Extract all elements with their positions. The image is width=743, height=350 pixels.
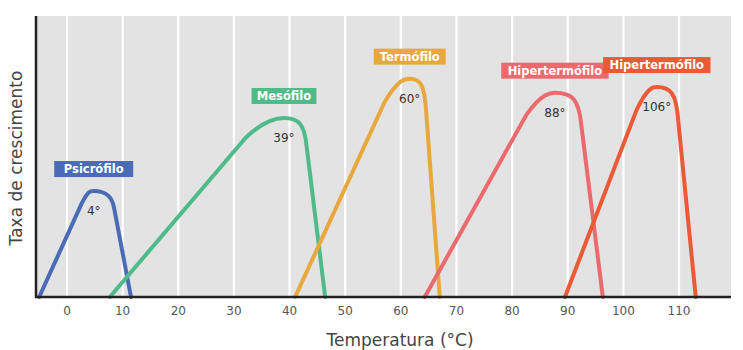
x-tick-label: 80 bbox=[504, 304, 519, 318]
series-label: Hipertermófilo bbox=[610, 58, 705, 72]
x-tick-label: 90 bbox=[560, 304, 575, 318]
x-tick-label: 60 bbox=[393, 304, 408, 318]
x-axis-label: Temperatura (°C) bbox=[250, 330, 550, 350]
optimum-label: 60° bbox=[399, 92, 420, 106]
x-tick-label: 50 bbox=[338, 304, 353, 318]
x-tick-labels: 0102030405060708090100110 bbox=[63, 304, 690, 318]
series-label: Mesófilo bbox=[257, 89, 311, 103]
x-tick-label: 0 bbox=[63, 304, 71, 318]
series-label: Termófilo bbox=[380, 50, 440, 64]
optimum-label: 4° bbox=[87, 204, 101, 218]
optimum-label: 88° bbox=[544, 106, 565, 120]
x-tick-label: 30 bbox=[226, 304, 241, 318]
y-axis-label: Taxa de crescimento bbox=[6, 48, 30, 268]
series-label: Hipertermófilo bbox=[508, 64, 603, 78]
series-label: Psicrófilo bbox=[64, 162, 124, 176]
x-tick-label: 10 bbox=[115, 304, 130, 318]
x-tick-label: 70 bbox=[449, 304, 464, 318]
x-tick-label: 20 bbox=[171, 304, 186, 318]
optimum-label: 106° bbox=[642, 100, 671, 114]
x-tick-label: 40 bbox=[282, 304, 297, 318]
x-tick-label: 110 bbox=[668, 304, 691, 318]
optimum-label: 39° bbox=[273, 131, 294, 145]
x-tick-label: 100 bbox=[612, 304, 635, 318]
